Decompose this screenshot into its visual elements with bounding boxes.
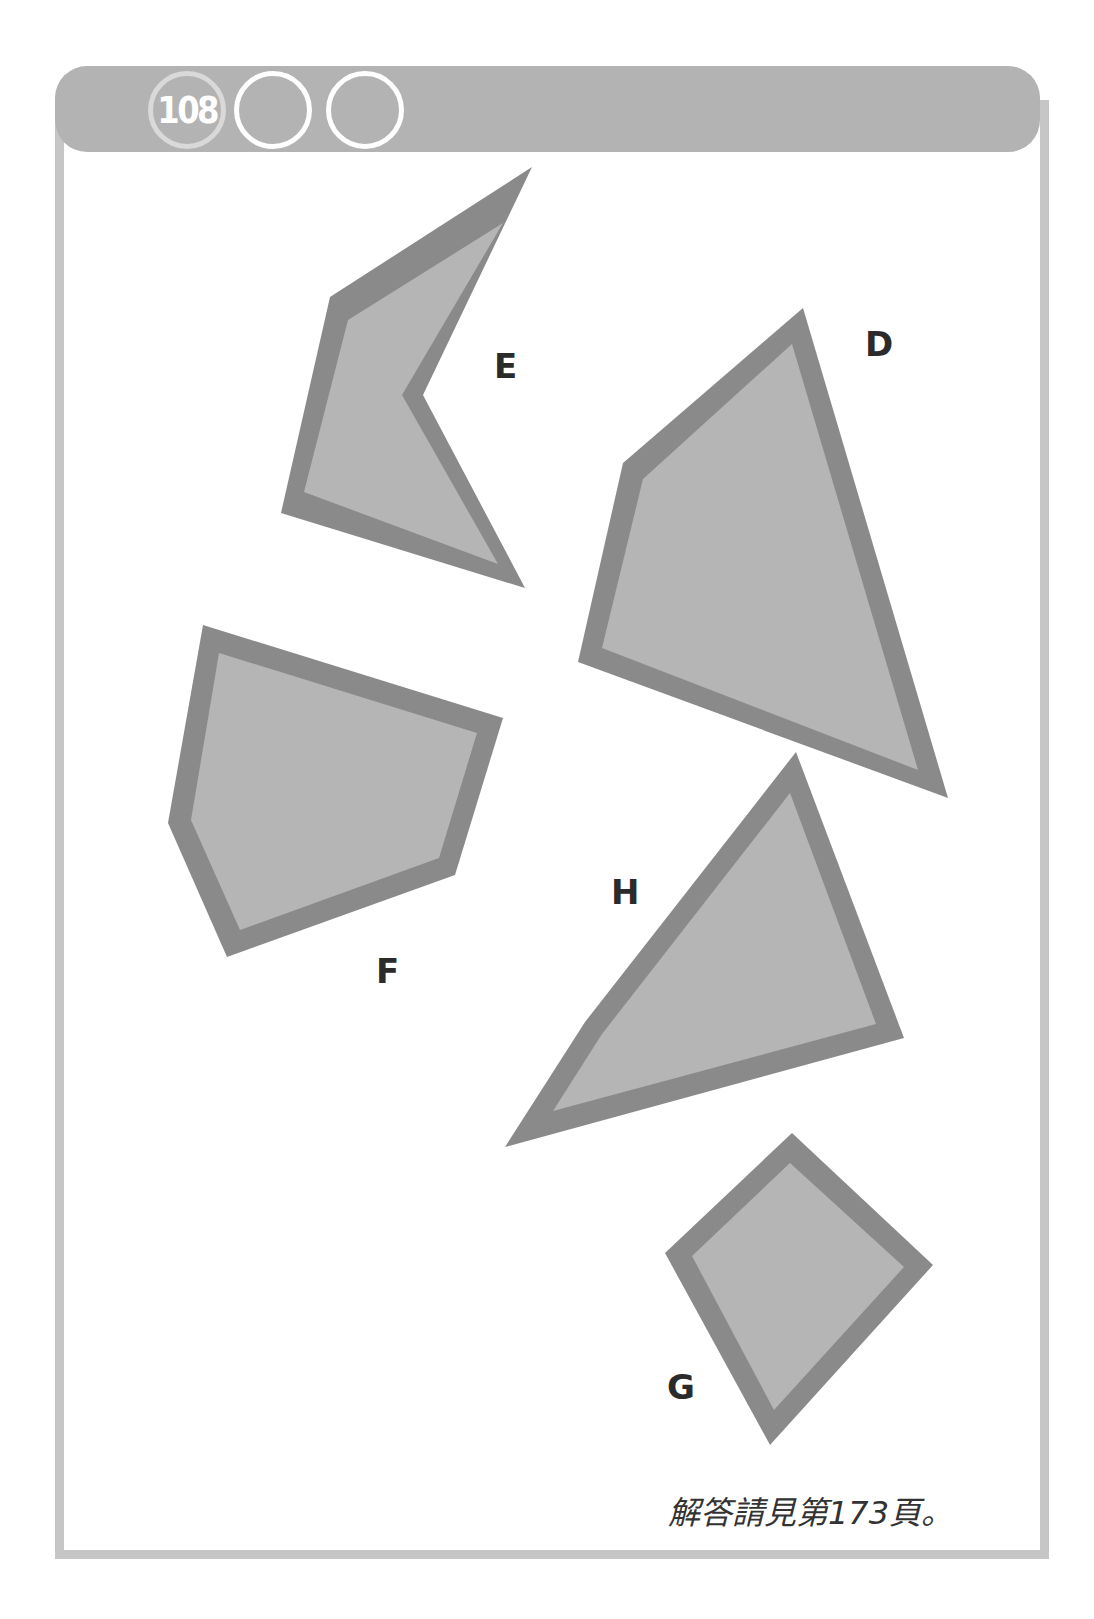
shape-h[interactable] bbox=[505, 752, 904, 1147]
shapes-canvas bbox=[0, 0, 1094, 1619]
label-f: F bbox=[376, 954, 399, 988]
label-h: H bbox=[611, 875, 639, 909]
shape-d[interactable] bbox=[578, 308, 948, 798]
shape-f-fill bbox=[191, 653, 477, 930]
label-e: E bbox=[494, 349, 517, 383]
shape-g[interactable] bbox=[665, 1133, 933, 1445]
label-g: G bbox=[667, 1370, 695, 1404]
shape-f[interactable] bbox=[168, 625, 503, 957]
label-d: D bbox=[865, 327, 893, 361]
answer-reference-note: 解答請見第173頁。 bbox=[668, 1487, 953, 1533]
